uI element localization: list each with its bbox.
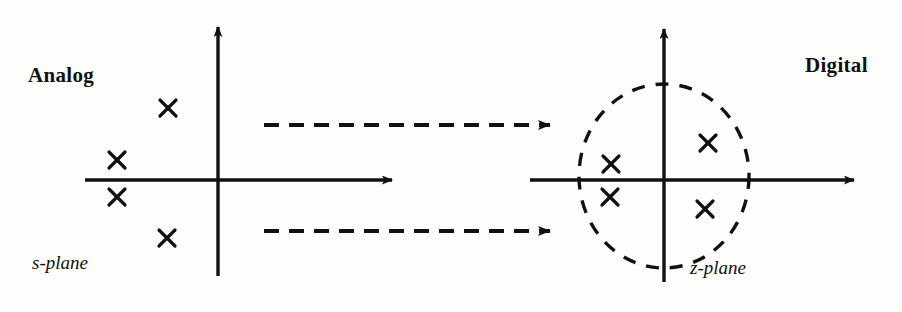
pole-marker-x — [109, 152, 125, 168]
pole-mapping-diagram — [0, 0, 902, 312]
figure-canvas: Analog Digital s-plane z-plane — [0, 0, 902, 312]
pole-marker-x — [109, 189, 125, 205]
pole-marker-x — [603, 156, 619, 172]
mapping-arrows — [264, 125, 550, 231]
pole-marker-x — [700, 135, 716, 151]
pole-marker-x — [602, 189, 618, 205]
z-plane-label: z-plane — [690, 258, 746, 277]
s-plane-group — [85, 27, 392, 276]
s-plane-poles — [109, 100, 176, 246]
digital-label: Digital — [805, 55, 868, 76]
pole-marker-x — [159, 230, 175, 246]
analog-label: Analog — [28, 65, 94, 86]
s-plane-label: s-plane — [32, 253, 88, 272]
pole-marker-x — [697, 201, 713, 217]
z-plane-poles — [602, 135, 716, 217]
pole-marker-x — [160, 100, 176, 116]
